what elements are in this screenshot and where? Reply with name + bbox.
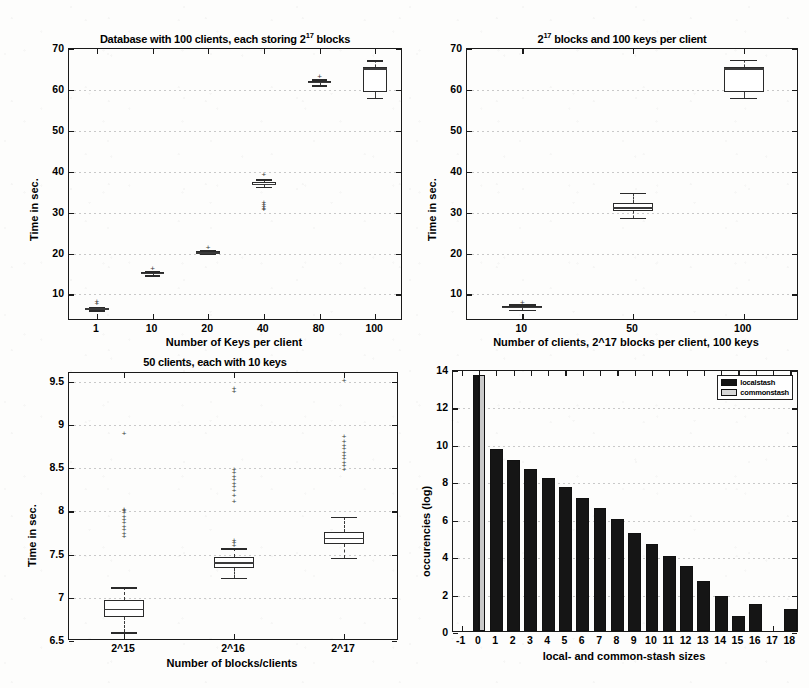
gridline bbox=[69, 555, 397, 556]
y-tickmark bbox=[69, 555, 74, 556]
bar-localstash bbox=[784, 609, 797, 631]
legend-item[interactable]: commonstash bbox=[721, 388, 789, 397]
y-tickmark bbox=[396, 49, 401, 50]
y-tickmark bbox=[392, 425, 397, 426]
x-tickmark bbox=[522, 314, 523, 319]
y-tick-label: 7.5 bbox=[49, 548, 64, 560]
y-tick-label: 10 bbox=[450, 287, 462, 299]
y-tick-label: 8 bbox=[58, 504, 64, 516]
gridline bbox=[69, 425, 397, 426]
y-tickmark bbox=[453, 408, 458, 409]
y-tickmark bbox=[392, 468, 397, 469]
bar-localstash bbox=[732, 616, 745, 631]
bar-localstash bbox=[542, 478, 555, 631]
boxplot-whisker-cap bbox=[200, 254, 215, 255]
gridline bbox=[69, 598, 397, 599]
x-tickmark bbox=[773, 626, 774, 631]
boxplot-outlier: + bbox=[317, 73, 322, 81]
x-tickmark bbox=[153, 49, 154, 54]
x-tickmark bbox=[264, 49, 265, 54]
gridline bbox=[453, 521, 797, 522]
y-tickmark bbox=[396, 90, 401, 91]
x-tick-label: 1 bbox=[492, 634, 498, 646]
panel1-title-pre: Database with 100 clients, each storing … bbox=[100, 33, 306, 45]
boxplot-whisker-cap bbox=[312, 85, 327, 86]
y-tickmark bbox=[792, 521, 797, 522]
boxplot-box bbox=[724, 67, 764, 91]
y-tickmark bbox=[69, 131, 74, 132]
x-tickmark bbox=[234, 634, 235, 639]
y-tickmark bbox=[392, 511, 397, 512]
y-tickmark bbox=[69, 90, 74, 91]
boxplot-median bbox=[252, 184, 275, 185]
x-tickmark bbox=[652, 371, 653, 376]
y-tickmark bbox=[467, 49, 472, 50]
panel-number-of-clients: 217 blocks and 100 keys per client Time … bbox=[418, 26, 806, 344]
y-tickmark bbox=[467, 294, 472, 295]
panel4-x-ticklabels: -10123456789101112131415161718 bbox=[452, 634, 796, 650]
x-tick-label: 0 bbox=[475, 634, 481, 646]
y-tickmark bbox=[453, 371, 458, 372]
y-tick-label: 60 bbox=[52, 83, 64, 95]
x-tick-label: 9 bbox=[631, 634, 637, 646]
panel-keys-per-client: Database with 100 clients, each storing … bbox=[20, 26, 410, 344]
x-tick-label: 3 bbox=[527, 634, 533, 646]
boxplot-whisker bbox=[234, 568, 235, 578]
panel3-title: 50 clients, each with 10 keys bbox=[50, 356, 380, 368]
y-tickmark bbox=[792, 371, 797, 372]
gridline bbox=[467, 213, 797, 214]
bar-localstash bbox=[524, 469, 537, 631]
panel2-title: 217 blocks and 100 keys per client bbox=[448, 31, 796, 45]
y-tickmark bbox=[792, 213, 797, 214]
boxplot-outlier: + bbox=[122, 430, 127, 438]
y-tickmark bbox=[392, 598, 397, 599]
x-tickmark bbox=[565, 371, 566, 376]
boxplot-whisker-cap bbox=[331, 517, 357, 518]
x-tick-label: 16 bbox=[749, 634, 761, 646]
y-tick-label: 8 bbox=[442, 476, 448, 488]
y-tickmark bbox=[392, 555, 397, 556]
x-tickmark bbox=[531, 371, 532, 376]
y-tickmark bbox=[69, 382, 74, 383]
gridline bbox=[467, 131, 797, 132]
x-tick-label: 15 bbox=[732, 634, 744, 646]
boxplot-whisker-cap bbox=[730, 60, 756, 61]
x-tick-label: 10 bbox=[146, 322, 158, 334]
panel3-y-ticklabels: 6.577.588.599.5 bbox=[32, 372, 64, 638]
x-tickmark bbox=[756, 371, 757, 376]
y-tickmark bbox=[467, 131, 472, 132]
x-tick-label: 17 bbox=[766, 634, 778, 646]
x-tick-label: 2 bbox=[510, 634, 516, 646]
panel2-y-ticklabels: 10203040506070 bbox=[436, 48, 462, 318]
boxplot-whisker-cap bbox=[509, 310, 535, 311]
y-tickmark bbox=[396, 254, 401, 255]
x-tickmark bbox=[514, 371, 515, 376]
x-tickmark bbox=[234, 373, 235, 378]
x-tickmark bbox=[633, 314, 634, 319]
bar-localstash bbox=[628, 533, 641, 631]
boxplot-median bbox=[196, 252, 219, 253]
y-tickmark bbox=[792, 294, 797, 295]
y-tick-label: 6 bbox=[442, 514, 448, 526]
y-tickmark bbox=[792, 49, 797, 50]
x-tickmark bbox=[773, 371, 774, 376]
gridline bbox=[453, 446, 797, 447]
y-tick-label: 70 bbox=[52, 42, 64, 54]
boxplot-median bbox=[308, 82, 331, 83]
y-tick-label: 7 bbox=[58, 591, 64, 603]
panel4-legend[interactable]: localstashcommonstash bbox=[717, 375, 793, 400]
panel2-plot-area: + bbox=[466, 48, 798, 320]
bar-localstash bbox=[715, 596, 728, 631]
x-tickmark bbox=[522, 49, 523, 54]
legend-item[interactable]: localstash bbox=[721, 378, 789, 387]
y-tick-label: 50 bbox=[52, 124, 64, 136]
y-tickmark bbox=[396, 213, 401, 214]
y-tickmark bbox=[792, 446, 797, 447]
x-tick-label: 50 bbox=[626, 322, 638, 334]
y-tickmark bbox=[396, 131, 401, 132]
boxplot-whisker-cap bbox=[256, 179, 271, 180]
boxplot-whisker-cap bbox=[367, 98, 382, 99]
y-tickmark bbox=[792, 558, 797, 559]
boxplot-outlier: + bbox=[94, 298, 99, 306]
panel3-x-ticklabels: 2^152^162^17 bbox=[68, 642, 396, 658]
